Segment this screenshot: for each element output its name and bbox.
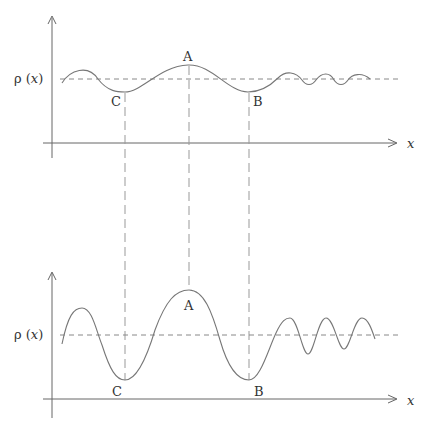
top-point-b-label: B xyxy=(253,94,263,109)
connector-lines xyxy=(125,66,249,380)
top-y-axis-label: ρ (x) xyxy=(14,71,43,86)
bottom-point-b-label: B xyxy=(254,384,264,399)
top-plot: ρ (x) x A B C xyxy=(14,16,415,158)
bottom-y-axis-label: ρ (x) xyxy=(14,327,43,342)
top-x-axis-label: x xyxy=(407,136,415,151)
bottom-point-a-label: A xyxy=(183,298,194,313)
top-point-c-label: C xyxy=(111,94,121,109)
density-fluctuation-diagram: ρ (x) x A B C ρ (x) x A B C xyxy=(0,0,435,429)
bottom-x-axis-label: x xyxy=(407,393,415,408)
bottom-plot: ρ (x) x A B C xyxy=(14,272,415,418)
top-density-curve xyxy=(62,65,370,92)
bottom-point-c-label: C xyxy=(112,384,122,399)
top-point-a-label: A xyxy=(182,49,193,64)
